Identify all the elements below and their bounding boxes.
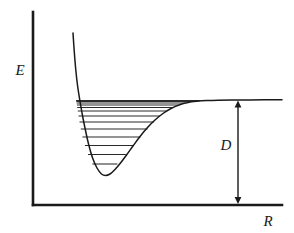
dissociation-energy-label: D xyxy=(220,137,232,153)
x-axis-label: R xyxy=(262,213,272,229)
arrow-head-up-icon xyxy=(235,101,242,108)
figure-canvas: E R D xyxy=(0,0,294,233)
morse-potential-figure: E R D xyxy=(0,0,294,233)
dissociation-energy-arrow xyxy=(235,101,242,205)
y-axis-label: E xyxy=(14,62,24,78)
arrow-head-down-icon xyxy=(235,197,242,204)
vibrational-energy-levels xyxy=(76,100,200,164)
